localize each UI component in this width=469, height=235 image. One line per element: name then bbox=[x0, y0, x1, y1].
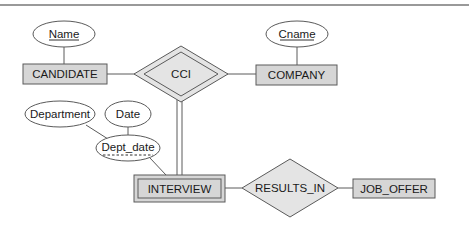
dept-date-label: Dept_date bbox=[101, 141, 154, 153]
relationship-cci[interactable]: CCI bbox=[134, 46, 228, 102]
department-label: Department bbox=[30, 108, 91, 120]
relationship-results-in[interactable]: RESULTS_IN bbox=[242, 159, 338, 217]
entity-job-offer[interactable]: JOB_OFFER bbox=[353, 179, 435, 198]
date-label: Date bbox=[116, 108, 140, 120]
entity-interview[interactable]: INTERVIEW bbox=[134, 175, 225, 202]
entity-company[interactable]: COMPANY bbox=[256, 65, 337, 85]
er-diagram: CCI RESULTS_IN CANDIDATE COMPANY INTERVI… bbox=[0, 0, 469, 235]
cci-label: CCI bbox=[171, 68, 191, 80]
entity-candidate[interactable]: CANDIDATE bbox=[23, 64, 107, 84]
attribute-date[interactable]: Date bbox=[105, 101, 151, 127]
name-label: Name bbox=[49, 28, 80, 40]
attribute-department[interactable]: Department bbox=[25, 101, 95, 127]
job-offer-label: JOB_OFFER bbox=[360, 183, 428, 195]
line-department-deptdate bbox=[86, 125, 108, 139]
interview-label: INTERVIEW bbox=[148, 183, 212, 195]
attribute-name[interactable]: Name bbox=[33, 21, 95, 47]
attribute-cname[interactable]: Cname bbox=[266, 21, 328, 47]
attribute-dept-date[interactable]: Dept_date bbox=[96, 135, 160, 161]
results-in-label: RESULTS_IN bbox=[255, 182, 325, 194]
candidate-label: CANDIDATE bbox=[32, 68, 98, 80]
company-label: COMPANY bbox=[268, 69, 326, 81]
line-deptdate-interview bbox=[150, 158, 166, 175]
cname-label: Cname bbox=[278, 28, 315, 40]
